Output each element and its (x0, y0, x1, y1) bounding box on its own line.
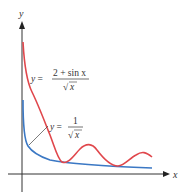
eq1-denominator-var: x (69, 82, 75, 92)
eq1-radical: √ (63, 82, 69, 92)
x-axis-arrow-icon (163, 171, 170, 177)
eq2-leader-line (29, 126, 48, 145)
x-axis-label: x (172, 169, 178, 180)
y-axis-label: y (18, 8, 24, 19)
annotation-eq-sin: y = 2 + sin x √ x (30, 68, 89, 92)
annotation-eq-inverse-sqrt: y = 1 √ x (29, 116, 83, 145)
chart-svg: x y y = 2 + sin x √ x y = 1 √ x (0, 0, 189, 196)
eq2-denominator-var: x (74, 130, 80, 140)
eq2-numerator: 1 (73, 116, 78, 126)
series-line-sin-over-sqrt (23, 42, 152, 166)
eq2-radical: √ (68, 130, 74, 140)
chart-container: x y y = 2 + sin x √ x y = 1 √ x (0, 0, 189, 196)
eq2-lhs: y = (49, 122, 62, 132)
eq1-numerator: 2 + sin x (53, 68, 86, 78)
eq1-lhs: y = (30, 74, 43, 84)
y-axis-arrow-icon (19, 21, 25, 29)
